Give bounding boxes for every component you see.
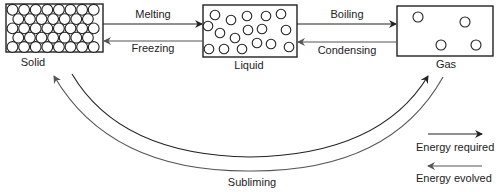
legend: Energy required Energy evolved	[416, 134, 494, 184]
liquid-molecule	[257, 24, 267, 34]
liquid-molecule	[203, 21, 213, 31]
liquid-molecule	[215, 28, 225, 38]
liquid-molecule	[266, 39, 276, 49]
freezing-label: Freezing	[132, 42, 175, 54]
gas-molecule	[436, 40, 446, 50]
liquid-box	[203, 5, 297, 57]
condensing-label: Condensing	[318, 44, 377, 56]
liquid-molecule	[242, 11, 252, 21]
gas-molecule	[413, 12, 423, 22]
legend-energy-evolved-label: Energy evolved	[416, 172, 492, 184]
liquid-molecule	[281, 25, 291, 35]
solid-molecule	[65, 42, 76, 53]
legend-energy-required-label: Energy required	[416, 141, 494, 153]
gas-molecule	[460, 17, 470, 27]
liquid-molecule	[226, 15, 236, 25]
liquid-molecule	[237, 44, 247, 54]
solid-molecule	[30, 42, 41, 53]
solid-molecule	[54, 42, 65, 53]
liquid-molecule	[230, 33, 240, 43]
solid-molecule	[7, 42, 18, 53]
liquid-molecule	[243, 25, 253, 35]
solid-box	[6, 4, 103, 52]
gas-molecule	[471, 40, 481, 50]
melting-label: Melting	[135, 8, 170, 20]
liquid-molecule	[210, 10, 220, 20]
solid-molecule	[42, 42, 53, 53]
solid-molecule	[77, 42, 88, 53]
solid-molecule	[88, 42, 99, 53]
boiling-label: Boiling	[330, 8, 363, 20]
solid-molecule	[19, 42, 30, 53]
liquid-molecule	[284, 42, 294, 52]
liquid-molecule	[204, 44, 214, 54]
liquid-molecule	[261, 11, 271, 21]
solid-label: Solid	[21, 56, 45, 68]
liquid-label: Liquid	[234, 59, 263, 71]
state-change-diagram: Solid Liquid Gas Melting Freezing Boilin…	[0, 0, 499, 192]
gas-label: Gas	[436, 58, 457, 70]
gas-box	[397, 6, 493, 56]
liquid-molecule	[219, 44, 229, 54]
liquid-molecule	[252, 38, 262, 48]
subliming-label: Subliming	[228, 176, 276, 188]
liquid-molecule	[276, 9, 286, 19]
